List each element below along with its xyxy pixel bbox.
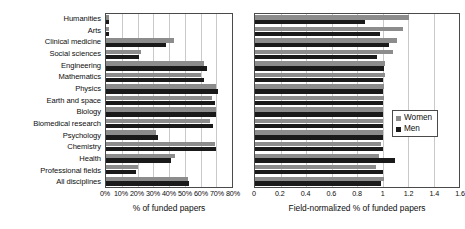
bar-rows-left <box>106 14 232 187</box>
bar-women <box>106 61 204 65</box>
bar-women <box>106 73 201 77</box>
legend-swatch-women-icon <box>396 116 401 121</box>
bar-group <box>106 141 232 153</box>
x-axis-title-left: % of funded papers <box>105 203 233 213</box>
bar-women <box>255 177 384 181</box>
category-label: Psychology <box>0 130 104 142</box>
category-label: Social sciences <box>0 48 104 60</box>
bar-group <box>106 37 232 49</box>
x-tick-label: 50% <box>178 189 192 198</box>
x-tick-label: 70% <box>210 189 224 198</box>
x-tick-label: 0.6 <box>326 189 336 198</box>
bar-women <box>106 27 109 31</box>
bar-women <box>255 96 384 100</box>
bar-group <box>106 72 232 84</box>
bar-men <box>106 32 109 36</box>
category-label: Earth and space <box>0 95 104 107</box>
bar-men <box>106 101 215 105</box>
x-axis-title-right: Field-normalized % of funded papers <box>254 203 460 213</box>
bar-group <box>106 60 232 72</box>
x-tick-label: 0.4 <box>301 189 311 198</box>
x-tick-label: 1.4 <box>429 189 439 198</box>
x-tick-label: 1.2 <box>404 189 414 198</box>
legend-swatch-men-icon <box>396 127 401 132</box>
x-tick-label: 1.6 <box>455 189 465 198</box>
bar-group <box>106 175 232 187</box>
category-label: Professional fields <box>0 165 104 177</box>
bar-women <box>106 165 138 169</box>
x-tick-label: 80% <box>226 189 240 198</box>
bar-group <box>106 106 232 118</box>
bar-group <box>106 118 232 130</box>
legend-label-women: Women <box>404 114 432 122</box>
bar-group <box>255 164 459 176</box>
bar-men <box>255 43 389 47</box>
x-tick-label: 0 <box>252 189 256 198</box>
bar-women <box>255 38 397 42</box>
bar-women <box>255 154 379 158</box>
bar-men <box>106 20 109 24</box>
bar-women <box>106 119 210 123</box>
bar-men <box>106 158 171 162</box>
legend: Women Men <box>392 110 438 137</box>
x-tick-label: 40% <box>162 189 176 198</box>
bar-men <box>106 124 213 128</box>
bar-men <box>255 101 383 105</box>
bar-men <box>106 181 189 185</box>
bar-men <box>255 20 365 24</box>
bar-group <box>255 72 459 84</box>
legend-label-men: Men <box>404 125 420 133</box>
bar-men <box>106 170 136 174</box>
bar-men <box>255 32 380 36</box>
bar-men <box>106 135 158 139</box>
x-tick-label: 20% <box>130 189 144 198</box>
bar-men <box>255 147 383 151</box>
bar-women <box>255 165 376 169</box>
bar-women <box>255 73 385 77</box>
bar-men <box>106 78 204 82</box>
bar-women <box>255 130 383 134</box>
bar-men <box>255 89 383 93</box>
bar-group <box>106 26 232 38</box>
bar-men <box>255 55 377 59</box>
bar-men <box>255 170 383 174</box>
category-label: Humanities <box>0 13 104 25</box>
category-label: Chemistry <box>0 141 104 153</box>
legend-item-women: Women <box>396 114 432 122</box>
bar-men <box>106 147 216 151</box>
bar-women <box>106 96 212 100</box>
category-label: All disciplines <box>0 176 104 188</box>
bar-group <box>255 83 459 95</box>
bar-group <box>255 175 459 187</box>
bar-women <box>255 107 383 111</box>
bar-men <box>255 124 383 128</box>
category-label: Arts <box>0 25 104 37</box>
x-tick-label: 1 <box>381 189 385 198</box>
bar-men <box>106 89 218 93</box>
bar-women <box>106 38 174 42</box>
bar-group <box>255 95 459 107</box>
x-tick-label: 0.8 <box>352 189 362 198</box>
bar-women <box>106 84 216 88</box>
x-tick-label: 30% <box>146 189 160 198</box>
x-tick-label: 0.2 <box>275 189 285 198</box>
bar-group <box>106 164 232 176</box>
bar-women <box>106 154 175 158</box>
bar-men <box>255 66 384 70</box>
bar-women <box>106 107 216 111</box>
legend-item-men: Men <box>396 125 432 133</box>
category-label: Engineering <box>0 60 104 72</box>
plot-area-right <box>255 14 459 187</box>
x-ticks-right: 00.20.40.60.811.21.41.6 <box>254 189 460 201</box>
bar-group <box>255 49 459 61</box>
category-label: Mathematics <box>0 71 104 83</box>
bar-men <box>106 43 166 47</box>
category-label: Biology <box>0 106 104 118</box>
bar-women <box>255 27 403 31</box>
bar-group <box>255 141 459 153</box>
bar-men <box>106 112 216 116</box>
bar-group <box>255 14 459 26</box>
category-axis: HumanitiesArtsClinical medicineSocial sc… <box>0 13 104 188</box>
bar-group <box>106 14 232 26</box>
